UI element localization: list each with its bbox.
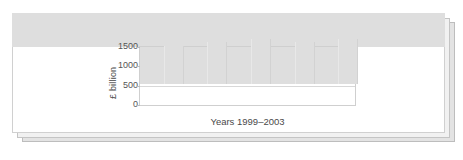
y-tick-label-0: 0 <box>104 99 138 109</box>
bar-1999 <box>164 46 184 84</box>
y-tickmark-0 <box>136 105 140 106</box>
x-axis-title: Years 1999–2003 <box>139 116 356 127</box>
y-axis-tick-labels: 1500 1000 500 0 <box>104 13 138 133</box>
y-tick-label-1500: 1500 <box>104 41 138 51</box>
bar-2001 <box>251 39 271 84</box>
plot-area <box>139 46 356 106</box>
bar-2002 <box>295 42 315 84</box>
gridline-500 <box>140 86 355 87</box>
bar-2000 <box>207 42 227 84</box>
y-tick-label-1000: 1000 <box>104 60 138 70</box>
bar-series <box>140 47 355 84</box>
bar-2003 <box>338 39 358 84</box>
y-tickmark-500 <box>136 86 140 87</box>
y-tick-label-500: 500 <box>104 80 138 90</box>
screenshot-root: £ billion 1500 1000 500 0 Years 1999–200… <box>0 0 463 160</box>
bar-chart: £ billion 1500 1000 500 0 Years 1999–200… <box>12 13 445 47</box>
